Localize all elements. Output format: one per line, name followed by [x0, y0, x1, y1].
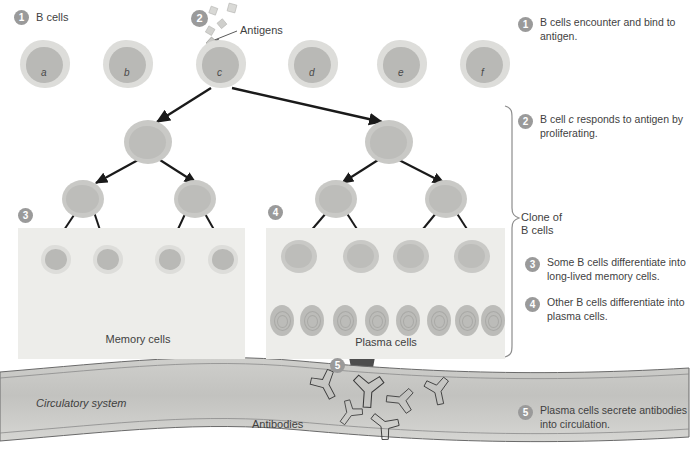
- plasma-cell: [427, 305, 451, 336]
- memory-cells-caption: Memory cells: [88, 333, 188, 345]
- memory-cell: [155, 245, 185, 274]
- plasma-cell: [481, 305, 505, 336]
- circulatory-system-label: Circulatory system: [36, 397, 126, 409]
- step-note-3-badge: 3: [525, 257, 540, 272]
- b-cell-e: e: [377, 40, 427, 88]
- memory-cell: [208, 245, 238, 274]
- step-marker-2: 2: [191, 10, 208, 27]
- step-marker-1: 1: [14, 10, 29, 25]
- b-cell-a: a: [20, 40, 70, 88]
- proliferating-cell: [365, 120, 413, 164]
- step-note-1-text: B cells encounter and bind to antigen.: [540, 16, 694, 43]
- b-cell-letter: c: [217, 67, 222, 78]
- plasma-precursor-cell: [393, 240, 429, 273]
- plasma-cell: [396, 305, 420, 336]
- step-note-2-badge: 2: [518, 114, 533, 129]
- plasma-cell: [455, 305, 479, 336]
- step-note-5-text: Plasma cells secrete antibodies into cir…: [540, 404, 694, 431]
- b-cell-b: b: [103, 40, 153, 88]
- step-note-2-text: B cell c responds to antigen by prolifer…: [540, 113, 694, 140]
- proliferating-cell: [315, 180, 357, 218]
- proliferating-cell: [62, 180, 104, 218]
- step-marker-4: 4: [268, 205, 283, 220]
- proliferating-cell: [124, 120, 172, 164]
- step-note-4-text: Other B cells differentiate into plasma …: [547, 296, 694, 323]
- b-cell-letter: b: [124, 67, 130, 78]
- plasma-cell: [333, 305, 357, 336]
- plasma-cell: [270, 305, 294, 336]
- arrows-tier1-to-tier2: [157, 88, 382, 122]
- clone-brace: [505, 106, 519, 357]
- proliferating-cell: [174, 180, 216, 218]
- memory-cell: [93, 245, 123, 274]
- proliferating-cell: [425, 180, 467, 218]
- b-cell-d: d: [288, 40, 338, 88]
- plasma-cell: [300, 305, 324, 336]
- b-cell-letter: d: [309, 67, 315, 78]
- memory-cell: [41, 245, 71, 274]
- b-cell-letter: e: [398, 67, 404, 78]
- clone-of-b-cells-label-line2: B cells: [521, 224, 553, 236]
- b-cell-letter: a: [41, 67, 47, 78]
- step-note-1-badge: 1: [518, 17, 533, 32]
- plasma-cells-caption: Plasma cells: [336, 336, 436, 348]
- step-note-3-text: Some B cells differentiate into long-liv…: [547, 256, 694, 283]
- step-marker-3: 3: [18, 208, 33, 223]
- step-marker-5: 5: [330, 358, 345, 373]
- step-note-4-badge: 4: [525, 297, 540, 312]
- plasma-precursor-cell: [343, 240, 379, 273]
- b-cells-label: B cells: [36, 11, 68, 23]
- plasma-precursor-cell: [281, 240, 317, 273]
- plasma-precursor-cell: [454, 240, 490, 273]
- b-cell-f: f: [460, 40, 510, 88]
- antigens-label: Antigens: [240, 24, 283, 36]
- b-cell-c: c: [196, 40, 246, 88]
- clone-of-b-cells-label-line1: Clone of: [521, 211, 562, 223]
- step-note-5-badge: 5: [518, 405, 533, 420]
- b-cell-letter: f: [481, 67, 484, 78]
- antibodies-label: Antibodies: [252, 418, 303, 430]
- plasma-cell: [365, 305, 389, 336]
